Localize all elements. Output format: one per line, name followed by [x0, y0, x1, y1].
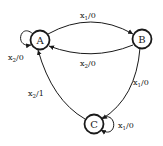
state-label-b: B: [138, 34, 145, 45]
edge-label-a-to-b: x1/0: [80, 11, 96, 21]
state-diagram: A B C x1/0 x2/0 x2/0 x1/0 x2/1 x1/0: [0, 0, 163, 146]
edge-label-b-to-a: x2/0: [80, 59, 96, 69]
edge-label-b-to-c: x1/0: [133, 78, 149, 88]
edge-c-to-a: [38, 50, 85, 119]
edge-label-a-self-loop: x2/0: [8, 53, 24, 63]
state-node-c: C: [85, 115, 104, 134]
edge-label-c-to-a: x2/1: [28, 89, 44, 99]
edge-a-to-b: [48, 22, 133, 34]
edge-b-to-a: [49, 45, 133, 54]
edge-label-c-self-loop: x1/0: [118, 121, 134, 131]
state-label-a: A: [35, 35, 44, 46]
state-node-a: A: [31, 31, 50, 50]
state-label-c: C: [90, 119, 98, 130]
state-node-b: B: [133, 30, 152, 49]
